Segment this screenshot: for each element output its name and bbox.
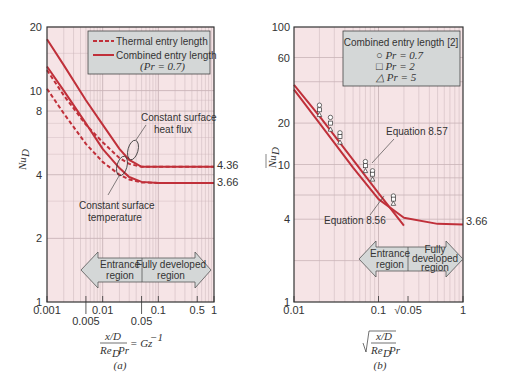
svg-text:10: 10 — [30, 85, 42, 97]
svg-text:20: 20 — [30, 21, 42, 33]
legend-label-thermal: Thermal entry length — [116, 36, 208, 47]
value-4-36: 4.36 — [217, 159, 238, 171]
entrance-region-label-2: region — [106, 270, 134, 281]
legend-title-b: Combined entry length [2] — [344, 37, 459, 48]
y-tick-labels-a: 12481020 — [30, 21, 42, 308]
svg-text:D: D — [269, 147, 281, 156]
equation-8-57-label: Equation 8.57 — [386, 126, 448, 137]
entrance-region-label-b1: Entrance — [370, 248, 410, 259]
svg-text:D: D — [19, 149, 31, 158]
equation-8-56-label: Equation 8.56 — [324, 215, 386, 226]
entrance-region-label-b2: region — [376, 259, 404, 270]
svg-text:1: 1 — [460, 304, 466, 316]
svg-text:4: 4 — [284, 213, 290, 225]
caption-a: (a) — [114, 359, 127, 372]
svg-text:0.1: 0.1 — [371, 304, 386, 316]
panel-a-chart: 12481020 0.0010.010.10.510.0050.05 Therm… — [16, 21, 238, 372]
svg-text:x/D: x/D — [375, 330, 392, 342]
x-axis-label-b: x/D Re D Pr — [363, 330, 401, 359]
svg-text:100: 100 — [272, 21, 290, 33]
svg-text:2: 2 — [36, 232, 42, 244]
svg-text:0.5: 0.5 — [190, 304, 205, 316]
svg-text:−1: −1 — [150, 331, 163, 343]
svg-text:Nu: Nu — [16, 157, 28, 171]
svg-text:Nu: Nu — [266, 155, 278, 169]
svg-text:0.01: 0.01 — [283, 304, 304, 316]
svg-text:10: 10 — [278, 159, 290, 171]
svg-text:8: 8 — [36, 105, 42, 117]
svg-text:0.1: 0.1 — [151, 304, 166, 316]
svg-text:0.05: 0.05 — [131, 315, 152, 327]
caption-b: (b) — [374, 359, 387, 372]
svg-text:Re: Re — [99, 344, 112, 356]
svg-text:1: 1 — [211, 304, 217, 316]
fully-developed-label-1: Fully developed — [136, 259, 206, 270]
value-3-66: 3.66 — [217, 176, 238, 188]
y-axis-label-a: Nu D — [16, 149, 31, 171]
svg-text:√0.05: √0.05 — [394, 304, 421, 316]
fully-developed-label-2: region — [157, 270, 185, 281]
svg-text:Re: Re — [370, 344, 383, 356]
annotation-temperature-line1: Constant surface — [79, 200, 155, 211]
annotation-heat-flux-line1: Constant surface — [141, 112, 217, 123]
svg-text:Pr: Pr — [388, 344, 401, 356]
annotation-temperature-line2: temperature — [88, 212, 142, 223]
annotation-heat-flux-line2: heat flux — [154, 124, 192, 135]
fully-developed-label-b3: region — [421, 262, 449, 273]
legend-pr-5: △ Pr = 5 — [375, 71, 417, 83]
svg-text:20: 20 — [278, 117, 290, 129]
svg-text:0.005: 0.005 — [72, 315, 100, 327]
x-axis-label-a: x/D Re D Pr = Gz −1 — [99, 330, 163, 359]
figure: 12481020 0.0010.010.10.510.0050.05 Therm… — [0, 0, 507, 385]
svg-text:0.001: 0.001 — [33, 304, 61, 316]
legend-label-pr: (Pr = 0.7) — [140, 60, 185, 73]
legend-b: Combined entry length [2] ○ Pr = 0.7 □ P… — [343, 31, 460, 86]
svg-text:Pr: Pr — [117, 344, 130, 356]
value-3-66-b: 3.66 — [466, 215, 487, 227]
svg-text:60: 60 — [278, 52, 290, 64]
entrance-region-label-1: Entrance — [100, 259, 140, 270]
svg-text:x/D: x/D — [104, 330, 121, 342]
svg-text:4: 4 — [36, 169, 42, 181]
legend-a: Thermal entry length Combined entry leng… — [88, 31, 217, 74]
panel-b-chart: 14102060100 0.010.1√0.051 Combined entry… — [266, 21, 487, 372]
